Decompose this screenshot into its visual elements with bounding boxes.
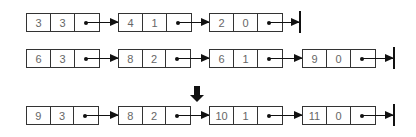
next-arrow-icon xyxy=(270,58,302,59)
coef-cell: 6 xyxy=(210,50,234,67)
null-terminator-icon xyxy=(299,11,301,33)
coef-cell: 2 xyxy=(210,14,234,31)
next-arrow-icon xyxy=(270,115,302,116)
exp-cell: 3 xyxy=(51,107,75,124)
exp-cell: 3 xyxy=(51,14,75,31)
null-terminator-icon xyxy=(393,104,395,126)
exp-cell: 2 xyxy=(143,50,167,67)
coef-cell: 6 xyxy=(27,50,51,67)
coef-cell: 4 xyxy=(119,14,143,31)
next-arrow-icon xyxy=(270,22,299,23)
coef-cell: 8 xyxy=(119,50,143,67)
next-arrow-icon xyxy=(87,22,118,23)
exp-cell: 0 xyxy=(327,107,351,124)
coef-cell: 8 xyxy=(119,107,143,124)
exp-cell: 0 xyxy=(327,50,351,67)
next-arrow-icon xyxy=(86,115,118,116)
next-arrow-icon xyxy=(178,58,209,59)
coef-cell: 3 xyxy=(27,14,51,31)
exp-cell: 3 xyxy=(51,50,75,67)
coef-cell: 9 xyxy=(303,50,327,67)
next-arrow-icon xyxy=(87,58,118,59)
exp-cell: 0 xyxy=(234,14,258,31)
null-terminator-icon xyxy=(393,47,395,69)
next-arrow-icon xyxy=(363,115,393,116)
coef-cell: 11 xyxy=(303,107,327,124)
exp-cell: 1 xyxy=(234,50,258,67)
exp-cell: 2 xyxy=(143,107,167,124)
next-arrow-icon xyxy=(179,22,209,23)
coef-cell: 10 xyxy=(210,107,234,124)
next-arrow-icon xyxy=(363,58,393,59)
coef-cell: 9 xyxy=(27,107,51,124)
next-arrow-icon xyxy=(178,115,209,116)
exp-cell: 1 xyxy=(143,14,167,31)
down-arrow-icon xyxy=(194,86,200,96)
exp-cell: 1 xyxy=(234,107,258,124)
